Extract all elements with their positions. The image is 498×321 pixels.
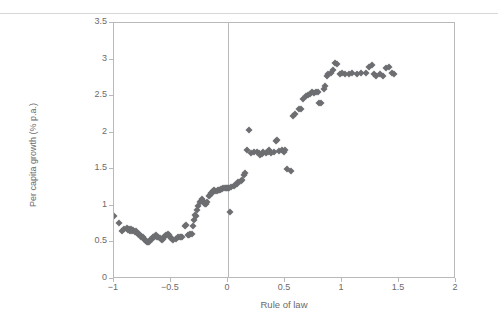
- data-point: [245, 126, 252, 133]
- y-tick-label: 2: [71, 126, 107, 136]
- data-point: [391, 71, 398, 78]
- data-point: [114, 213, 118, 220]
- plot-frame: [113, 22, 455, 278]
- data-point: [362, 70, 369, 77]
- zero-reference-line: [228, 23, 229, 277]
- x-tick-label: −0.5: [150, 282, 190, 292]
- x-tick-label: 1.5: [378, 282, 418, 292]
- y-tick-mark: [109, 241, 113, 242]
- y-tick-mark: [109, 95, 113, 96]
- data-point: [227, 208, 234, 215]
- plot-area: [114, 23, 454, 277]
- data-point: [115, 220, 122, 227]
- y-tick-mark: [109, 205, 113, 206]
- x-tick-label: 2: [435, 282, 475, 292]
- data-point: [379, 72, 386, 79]
- y-tick-label: 1.5: [71, 162, 107, 172]
- data-point: [189, 223, 196, 230]
- data-point: [334, 60, 341, 67]
- x-tick-label: 0: [207, 282, 247, 292]
- y-tick-mark: [109, 168, 113, 169]
- y-tick-mark: [109, 59, 113, 60]
- y-tick-mark: [109, 22, 113, 23]
- y-axis-title: Per capita growth (% p.a.): [28, 75, 38, 235]
- x-axis-title: Rule of law: [113, 299, 455, 310]
- y-tick-label: 0: [71, 272, 107, 282]
- y-tick-label: 0.5: [71, 235, 107, 245]
- x-tick-label: 0.5: [264, 282, 304, 292]
- y-tick-label: 3.5: [71, 16, 107, 26]
- y-tick-label: 1: [71, 199, 107, 209]
- y-tick-label: 3: [71, 53, 107, 63]
- data-point: [318, 99, 325, 106]
- figure-scatter-rule-of-law: Per capita growth (% p.a.) Rule of law 0…: [0, 0, 498, 321]
- y-tick-mark: [109, 132, 113, 133]
- data-point: [287, 168, 294, 175]
- x-tick-label: −1: [93, 282, 133, 292]
- y-tick-label: 2.5: [71, 89, 107, 99]
- x-tick-label: 1: [321, 282, 361, 292]
